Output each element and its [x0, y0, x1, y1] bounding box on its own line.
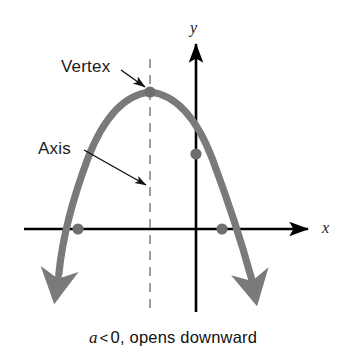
caption-value: 0, — [111, 328, 125, 346]
caption-text: opens downward — [130, 328, 258, 346]
diagram-canvas — [0, 0, 346, 356]
y-intercept-point — [190, 148, 201, 159]
axis-leader-line — [84, 150, 146, 185]
parabola-figure: Vertex Axis y x a<0, opens downward — [0, 0, 346, 356]
axis-label: Axis — [38, 140, 71, 157]
vertex-label: Vertex — [61, 58, 110, 75]
parabola-curve — [59, 92, 251, 277]
caption-variable: a — [89, 328, 98, 347]
y-axis-label: y — [190, 20, 197, 36]
vertex-leader-line — [121, 70, 145, 87]
caption-relation-symbol: < — [98, 329, 111, 346]
x-axis-label: x — [322, 220, 329, 236]
vertex-point — [144, 86, 155, 97]
figure-caption: a<0, opens downward — [0, 328, 346, 348]
parabola-left-end-arrow — [55, 273, 59, 299]
right-x-intercept-point — [216, 223, 227, 234]
left-x-intercept-point — [72, 223, 83, 234]
parabola-right-end-arrow — [251, 277, 256, 301]
